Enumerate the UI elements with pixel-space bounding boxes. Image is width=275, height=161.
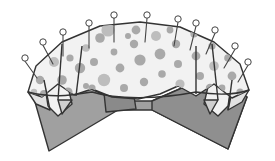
pin-head	[111, 12, 117, 18]
polka-dot	[36, 76, 44, 84]
polka-dot	[98, 74, 110, 86]
polka-dot	[158, 70, 166, 78]
polka-dot	[130, 40, 138, 48]
polka-dot	[83, 83, 89, 89]
polka-dot	[116, 64, 125, 73]
polka-dot	[125, 33, 131, 39]
polka-dot	[140, 78, 148, 86]
polka-dot	[167, 27, 174, 34]
pin-head	[193, 20, 199, 26]
pin-head	[40, 39, 46, 45]
polka-dot	[151, 31, 161, 41]
polka-dot	[134, 54, 145, 65]
pin-head	[212, 27, 218, 33]
polka-dot	[196, 72, 204, 80]
scene-svg	[0, 0, 275, 161]
pin-head	[86, 20, 92, 26]
pin-head	[245, 59, 251, 65]
pin-head	[144, 12, 150, 18]
pin-head	[22, 55, 28, 61]
pin-head	[232, 43, 238, 49]
polka-dot	[90, 58, 98, 66]
polka-dot	[155, 49, 166, 60]
polka-dot	[132, 26, 141, 35]
polka-dot	[120, 84, 128, 92]
polka-dot	[174, 60, 182, 68]
pin-head	[60, 29, 66, 35]
polka-dot	[228, 72, 237, 81]
polka-dot	[111, 49, 118, 56]
pin-head	[175, 16, 181, 22]
polka-dot	[172, 40, 180, 48]
illustration-canvas	[0, 0, 275, 161]
polka-dot	[66, 54, 73, 61]
